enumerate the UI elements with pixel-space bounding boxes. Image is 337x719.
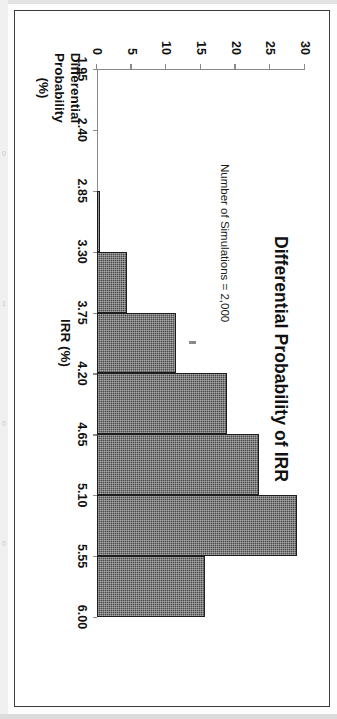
bar <box>97 190 100 251</box>
y-axis-tick <box>165 64 166 69</box>
x-axis-tick <box>93 617 97 618</box>
margin-mark-2: 1 <box>2 300 6 307</box>
y-axis-title: Differential Probability (%) <box>35 8 83 168</box>
x-axis-tick-label: 6.00 <box>75 604 89 628</box>
y-axis-tick-label: 30 <box>298 41 312 55</box>
bar <box>97 556 205 617</box>
x-axis-tick <box>93 495 97 496</box>
x-axis-tick-label: 3.75 <box>75 300 89 324</box>
y-axis-line <box>97 69 305 70</box>
bar <box>97 312 176 373</box>
y-axis-tick-label: 10 <box>159 41 173 55</box>
x-axis-tick-label: 5.55 <box>75 543 89 567</box>
x-axis-tick-label: 4.20 <box>75 361 89 385</box>
x-axis-tick <box>93 251 97 252</box>
y-axis-tick <box>304 64 305 69</box>
y-axis-tick <box>234 64 235 69</box>
x-axis-tick-label: 2.85 <box>75 178 89 202</box>
margin-mark-1: 0 <box>2 150 6 157</box>
x-axis-tick <box>93 373 97 374</box>
x-axis-tick <box>93 434 97 435</box>
y-axis-tick-label: 25 <box>263 41 277 55</box>
x-axis-tick <box>93 190 97 191</box>
x-axis-tick <box>93 129 97 130</box>
x-axis-tick <box>93 312 97 313</box>
bar <box>97 495 297 556</box>
scanned-page: 0 1 0 0 Differential Probability of IRR … <box>0 0 337 719</box>
margin-mark-3: 0 <box>2 420 6 427</box>
y-axis-tick <box>130 64 131 69</box>
y-axis-tick <box>200 64 201 69</box>
chart-frame: Differential Probability of IRR Number o… <box>14 10 330 707</box>
page-edge-top <box>0 0 337 4</box>
bar <box>97 373 227 434</box>
y-axis-tick <box>96 64 97 69</box>
y-axis-tick <box>269 64 270 69</box>
y-axis-title-line-3: (%) <box>35 8 51 168</box>
margin-mark-4: 0 <box>2 540 6 547</box>
y-axis-tick-label: 5 <box>125 48 139 55</box>
y-axis-title-line-1: Differential <box>67 8 83 168</box>
plot-area: 1.952.402.853.303.754.204.655.105.556.00… <box>97 69 305 617</box>
bar <box>97 251 128 312</box>
y-axis-tick-label: 0 <box>90 48 104 55</box>
y-axis-tick-label: 20 <box>229 41 243 55</box>
y-axis-title-line-2: Probability <box>51 8 67 168</box>
print-artifact <box>189 341 196 344</box>
bar <box>97 434 259 495</box>
page-edge-bottom <box>0 714 337 719</box>
page-edge-left <box>0 0 8 719</box>
x-axis-tick-label: 3.30 <box>75 239 89 263</box>
rotated-figure-stage: Differential Probability of IRR Number o… <box>17 14 327 704</box>
y-axis-tick-label: 15 <box>194 41 208 55</box>
x-axis-tick-label: 4.65 <box>75 422 89 446</box>
x-axis-tick-label: 5.10 <box>75 483 89 507</box>
x-axis-tick <box>93 556 97 557</box>
